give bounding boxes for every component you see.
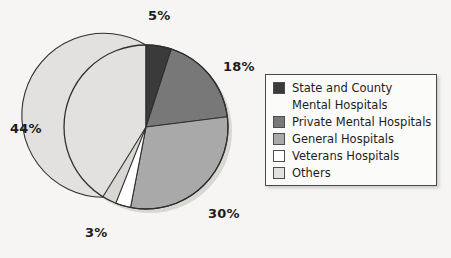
legend-item-veterans-hospitals[interactable]: Veterans Hospitals	[273, 148, 432, 165]
pie-chart-figure: 5% 18% 30% 3% 44% State and County Menta…	[0, 0, 451, 258]
chart-legend: State and County Mental Hospitals Privat…	[265, 74, 437, 186]
legend-swatch-private-mental	[273, 116, 285, 128]
legend-label-veterans-hospitals: Veterans Hospitals	[292, 148, 399, 164]
legend-item-others[interactable]: Others	[273, 165, 432, 182]
legend-swatch-others	[273, 167, 285, 179]
legend-swatch-veterans-hospitals	[273, 150, 285, 162]
pie-label-veterans-hospitals: 3%	[85, 225, 107, 240]
pie-label-private-mental: 18%	[223, 59, 255, 74]
legend-item-state-and-county-line2: Mental Hospitals	[273, 97, 432, 114]
legend-label-private-mental: Private Mental Hospitals	[292, 114, 431, 130]
legend-item-private-mental[interactable]: Private Mental Hospitals	[273, 114, 432, 131]
legend-swatch-state-and-county	[273, 82, 285, 94]
legend-swatch-spacer	[273, 99, 285, 111]
pie-label-general-hospitals: 30%	[208, 206, 240, 221]
legend-label-others: Others	[292, 165, 331, 181]
legend-label-state-and-county-cont: Mental Hospitals	[292, 97, 388, 113]
pie-label-state-and-county: 5%	[148, 8, 170, 23]
legend-label-general-hospitals: General Hospitals	[292, 131, 394, 147]
legend-item-general-hospitals[interactable]: General Hospitals	[273, 131, 432, 148]
legend-label-state-and-county: State and County	[292, 80, 392, 96]
legend-swatch-general-hospitals	[273, 133, 285, 145]
pie-label-others: 44%	[10, 121, 42, 136]
legend-item-state-and-county[interactable]: State and County	[273, 80, 432, 97]
